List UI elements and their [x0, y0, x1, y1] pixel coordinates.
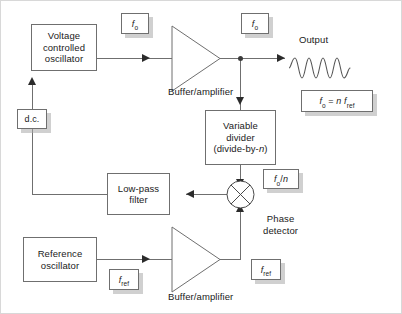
tag-fon-sub: o — [277, 180, 281, 187]
junction-dot-output-tap — [238, 56, 243, 61]
arrowhead-lpf-input — [186, 190, 194, 198]
equation-n: n — [336, 96, 341, 106]
lpf-label-line1: Low-pass — [110, 183, 167, 195]
tag-fref-osc-sub: ref — [121, 280, 129, 287]
tag-fo-amp-sub: o — [254, 24, 258, 31]
phase-detector-symbol[interactable] — [226, 180, 255, 209]
tag-fref-oscillator-output[interactable]: fref — [109, 269, 139, 290]
output-waveform — [289, 57, 352, 80]
label-phase-detector: Phase detector — [263, 213, 298, 236]
tag-fref-amp-sub: ref — [263, 270, 271, 277]
tag-fo-vco-sub: o — [134, 24, 138, 31]
wire-buffer-to-output — [220, 58, 285, 59]
tag-fon-n: n — [283, 174, 288, 184]
wire-buffer-to-riser-bottom — [220, 259, 241, 260]
block-low-pass-filter[interactable]: Low-pass filter — [107, 173, 170, 215]
tag-fo-over-n[interactable]: fo/n — [263, 169, 299, 189]
block-reference-oscillator[interactable]: Reference oscillator — [23, 237, 97, 282]
divider-line3-suffix: ) — [264, 143, 267, 154]
label-output: Output — [299, 34, 328, 46]
arrowhead-divider-input — [236, 97, 244, 105]
refosc-label-line2: oscillator — [26, 260, 94, 272]
tag-dc[interactable]: d.c. — [17, 109, 47, 129]
label-buffer-amplifier-top: Buffer/amplifier — [168, 86, 233, 98]
tag-fo-amplifier-output[interactable]: fo — [241, 13, 269, 34]
phase-detector-label-line1: Phase — [263, 213, 298, 225]
buffer-amplifier-top-symbol[interactable] — [171, 25, 223, 92]
wire-refosc-to-buffer — [97, 259, 173, 260]
arrowhead-output — [277, 54, 285, 62]
refosc-label-line1: Reference — [26, 248, 94, 260]
equation-lhs-sub: o — [322, 102, 326, 109]
phase-detector-label-line2: detector — [263, 225, 298, 237]
block-voltage-controlled-oscillator[interactable]: Voltage controlled oscillator — [31, 24, 97, 71]
arrowhead-vco-control-input — [28, 77, 36, 85]
wire-riser-to-vco — [32, 81, 33, 195]
divider-label-line2: divider — [208, 132, 273, 144]
wire-lpf-to-riser — [32, 194, 107, 195]
vco-label-line3: oscillator — [34, 53, 94, 65]
label-buffer-amplifier-bottom: Buffer/amplifier — [168, 291, 233, 303]
buffer-amplifier-bottom-symbol[interactable] — [171, 226, 223, 293]
tag-dc-text: d.c. — [25, 114, 40, 124]
arrowhead-vco-output — [142, 54, 150, 62]
equation-rhs-sub: ref — [347, 102, 355, 109]
tag-fref-amplifier-output[interactable]: fref — [251, 259, 281, 280]
arrowhead-refosc-output — [142, 255, 150, 263]
vco-label-line1: Voltage — [34, 30, 94, 42]
tag-fo-vco-output[interactable]: fo — [121, 13, 149, 34]
equation-equals: = — [326, 96, 337, 106]
vco-label-line2: controlled — [34, 42, 94, 54]
lpf-label-line2: filter — [110, 194, 167, 206]
divider-label-line1: Variable — [208, 120, 273, 132]
divider-label-line3: (divide-by-n) — [208, 143, 273, 155]
divider-line3-prefix: (divide-by- — [213, 143, 258, 154]
wire-vco-to-buffer — [97, 58, 173, 59]
diagram-canvas: Voltage controlled oscillator Variable d… — [0, 0, 402, 314]
tag-equation-fo-equals-n-fref[interactable]: fo = n fref — [301, 90, 373, 112]
block-variable-divider[interactable]: Variable divider (divide-by-n) — [205, 110, 276, 165]
wire-riser-to-phase-detector — [240, 209, 241, 260]
